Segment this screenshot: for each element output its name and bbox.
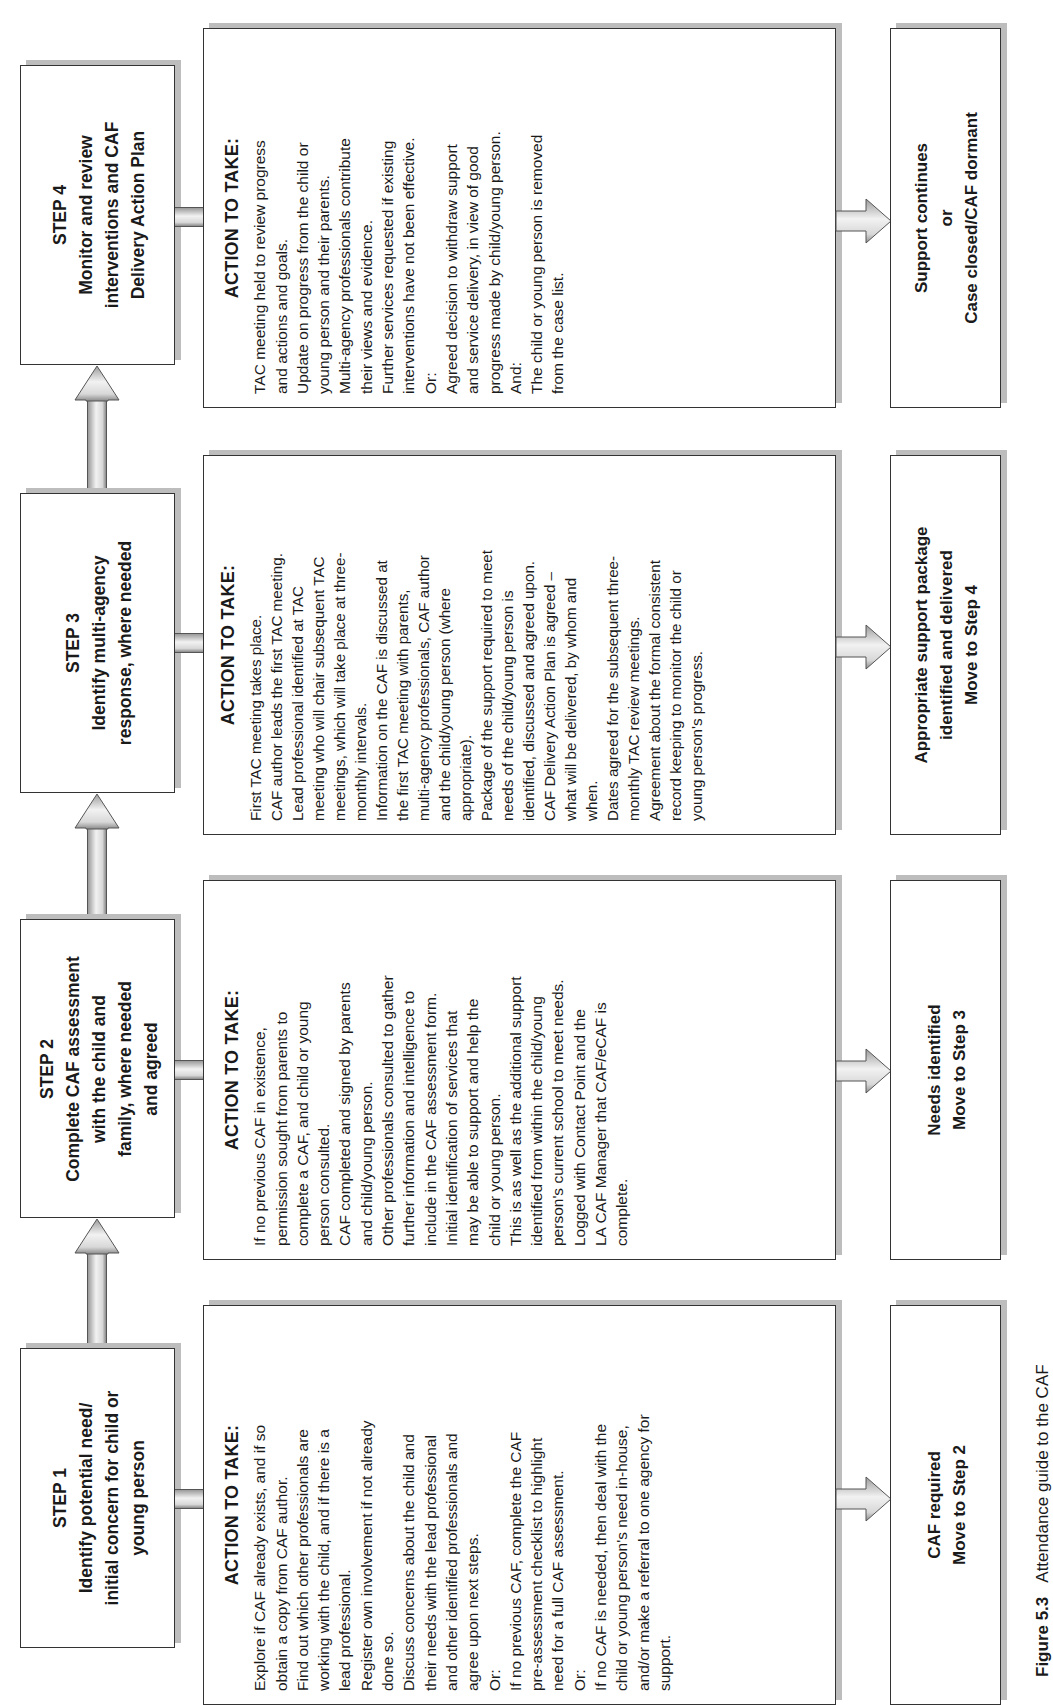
- step2-desc-line: family, where needed: [111, 981, 137, 1157]
- step3-to-step4-connector: [87, 398, 107, 494]
- step4-action-box: ACTION TO TAKE: TAC meeting held to revi…: [203, 28, 836, 408]
- step3-title: STEP 3: [59, 613, 85, 673]
- step2-action-line: may be able to support and help the: [461, 894, 482, 1246]
- step2-action-line: CAF completed and signed by parents: [333, 894, 354, 1246]
- step2-to-step3-arrowhead-icon: [74, 793, 120, 829]
- step3-action-line: needs of the child/young person is: [496, 469, 517, 821]
- step1-box: STEP 1 Identify potential need/ initial …: [20, 1348, 175, 1648]
- step3-action-line: appropriate).: [454, 469, 475, 821]
- step1-title: STEP 1: [46, 1468, 72, 1528]
- step1-desc-line: initial concern for child or: [98, 1391, 124, 1606]
- step2-action-line: Initial identification of services that: [440, 894, 461, 1246]
- step3-action-line: record keeping to monitor the child or: [664, 469, 685, 821]
- figure-caption-text: Attendance guide to the CAF: [1033, 1364, 1052, 1582]
- step3-action-line: meetings, which will take place at three…: [328, 469, 349, 821]
- step2-to-step3-connector: [87, 826, 107, 920]
- step2-desc-line: with the child and: [85, 995, 111, 1143]
- step2-to-action-connector: [175, 1060, 204, 1080]
- step4-outcome-line: Support continues: [908, 143, 933, 293]
- step2-outcome-box: Needs identified Move to Step 3: [890, 880, 1001, 1260]
- step3-outcome-arrow-icon: [836, 624, 892, 670]
- step3-outcome-line: Move to Step 4: [958, 585, 983, 705]
- step3-action-line: Dates agreed for the subsequent three-: [601, 469, 622, 821]
- step3-action-line: CAF author leads the first TAC meeting.: [265, 469, 286, 821]
- step4-outcome-box: Support continues or Case closed/CAF dor…: [890, 28, 1001, 408]
- step3-desc-line: Identify multi-agency: [85, 555, 111, 730]
- step2-action-line: LA CAF Manager that CAF/eCAF is: [589, 894, 610, 1246]
- step3-action-line: CAF Delivery Action Plan is agreed –: [538, 469, 559, 821]
- step4-action-line: TAC meeting held to review progress: [248, 42, 269, 394]
- step1-action-line: Or:: [483, 1319, 504, 1691]
- step2-action-box: ACTION TO TAKE: If no previous CAF in ex…: [203, 880, 836, 1260]
- step4-action-line: young person and their parents.: [312, 42, 333, 394]
- step3-action-header: ACTION TO TAKE:: [217, 469, 238, 821]
- step2-action-line: further information and intelligence to: [397, 894, 418, 1246]
- step1-desc-line: young person: [124, 1440, 150, 1556]
- step4-action-line: from the case list.: [546, 42, 567, 394]
- step4-desc-line: Monitor and review: [72, 135, 98, 294]
- step2-action-line: person's current school to meet needs.: [546, 894, 567, 1246]
- step3-box: STEP 3 Identify multi-agency response, w…: [20, 493, 175, 793]
- step3-outcome-box: Appropriate support package identified a…: [890, 455, 1001, 835]
- step4-to-action-connector: [175, 207, 204, 227]
- step1-action-line: their needs with the lead professional: [419, 1319, 440, 1691]
- step4-desc-line: interventions and CAF: [98, 122, 124, 309]
- step3-action-line: identified, discussed and agreed upon.: [517, 469, 538, 821]
- step1-action-line: working with the child, and if there is …: [312, 1319, 333, 1691]
- step1-to-step2-arrowhead-icon: [74, 1218, 120, 1254]
- step1-action-line: Find out which other professionals are: [291, 1319, 312, 1691]
- step1-action-line: child or young person's need in-house,: [610, 1319, 631, 1691]
- step3-action-line: First TAC meeting takes place.: [244, 469, 265, 821]
- step3-action-line: Package of the support required to meet: [475, 469, 496, 821]
- step2-outcome-line: Move to Step 3: [946, 1010, 971, 1130]
- step4-action-header: ACTION TO TAKE:: [221, 42, 242, 394]
- step4-action-line: interventions have not been effective.: [397, 42, 418, 394]
- step3-action-line: monthly TAC review meetings.: [622, 469, 643, 821]
- step2-action-line: identified from within the child/young: [525, 894, 546, 1246]
- step1-action-line: done so.: [376, 1319, 397, 1691]
- step2-action-line: complete a CAF, and child or young: [291, 894, 312, 1246]
- step1-action-line: agree upon next steps.: [461, 1319, 482, 1691]
- step2-action-line: and child/young person.: [355, 894, 376, 1246]
- step3-to-action-connector: [175, 633, 204, 653]
- step1-to-step2-connector: [87, 1252, 107, 1349]
- figure-label: Figure 5.3: [1033, 1597, 1052, 1677]
- step1-to-action-connector: [175, 1489, 204, 1509]
- step3-action-line: the first TAC meeting with parents,: [391, 469, 412, 821]
- step1-desc-line: Identify potential need/: [72, 1403, 98, 1594]
- step3-action-line: young person's progress.: [685, 469, 706, 821]
- step4-action-line: Multi-agency professionals contribute: [333, 42, 354, 394]
- step1-action-line: Explore if CAF already exists, and if so: [248, 1319, 269, 1691]
- step1-action-header: ACTION TO TAKE:: [221, 1319, 242, 1691]
- step1-action-line: need for a full CAF assessment.: [546, 1319, 567, 1691]
- step1-outcome-line: Move to Step 2: [946, 1445, 971, 1565]
- step4-action-line: And:: [504, 42, 525, 394]
- step1-action-line: If no CAF is needed, then deal with the: [589, 1319, 610, 1691]
- step3-action-box: ACTION TO TAKE: First TAC meeting takes …: [203, 455, 836, 835]
- step4-outcome-arrow-icon: [836, 198, 892, 244]
- step3-action-line: monthly intervals.: [349, 469, 370, 821]
- step1-action-line: lead professional.: [333, 1319, 354, 1691]
- step2-action-line: complete.: [610, 894, 631, 1246]
- step2-action-line: If no previous CAF in existence,: [248, 894, 269, 1246]
- step4-outcome-line: Case closed/CAF dormant: [958, 112, 983, 324]
- step4-action-line: progress made by child/young person.: [483, 42, 504, 394]
- step2-action-line: child or young person.: [483, 894, 504, 1246]
- step2-desc-line: and agreed: [137, 1022, 163, 1115]
- figure-caption: Figure 5.3Attendance guide to the CAF: [1033, 1364, 1053, 1677]
- step4-action-line: The child or young person is removed: [525, 42, 546, 394]
- step2-action-header: ACTION TO TAKE:: [221, 894, 242, 1246]
- step1-action-line: If no previous CAF, complete the CAF: [504, 1319, 525, 1691]
- step1-action-line: pre-assessment checklist to highlight: [525, 1319, 546, 1691]
- step4-outcome-line: or: [933, 210, 958, 227]
- step1-action-line: Register own involvement if not already: [355, 1319, 376, 1691]
- step1-action-line: Discuss concerns about the child and: [397, 1319, 418, 1691]
- step3-action-line: Lead professional identified at TAC: [286, 469, 307, 821]
- step3-action-line: what will be delivered, by whom and: [559, 469, 580, 821]
- step3-outcome-line: identified and delivered: [933, 550, 958, 740]
- step2-action-line: include in the CAF assessment form.: [419, 894, 440, 1246]
- step4-action-line: their views and evidence.: [355, 42, 376, 394]
- step1-action-line: and/or make a referral to one agency for: [632, 1319, 653, 1691]
- step3-action-line: multi-agency professionals, CAF author: [412, 469, 433, 821]
- step4-title: STEP 4: [46, 185, 72, 245]
